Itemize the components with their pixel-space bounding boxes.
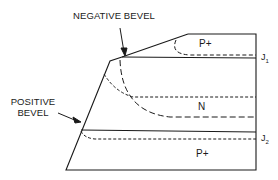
j2-sub: 2 [266, 139, 269, 145]
n-depletion-edge-short [104, 74, 256, 97]
positive-bevel-label: POSITIVE BEVEL [8, 96, 58, 118]
negative-bevel-label: NEGATIVE BEVEL [73, 10, 155, 21]
region-p-plus-top: P+ [199, 38, 212, 49]
negative-bevel-arrowhead [121, 48, 127, 56]
device-outline [66, 34, 256, 170]
j1-sub: 1 [266, 58, 269, 64]
n-depletion-edge-long [120, 60, 256, 117]
region-p-plus-bottom: P+ [196, 148, 209, 159]
junction-j2-label: J2 [261, 133, 269, 145]
region-n: N [198, 101, 205, 112]
positive-bevel-arrowhead [73, 117, 81, 123]
junction-j1-label: J1 [261, 52, 269, 64]
p-top-depletion-edge [175, 40, 256, 55]
positive-bevel-label-line1: POSITIVE [8, 96, 58, 107]
bevel-diagram: NEGATIVE BEVEL POSITIVE BEVEL P+ N P+ J1… [0, 0, 278, 180]
j1-line [122, 57, 256, 58]
j2-line [81, 130, 256, 132]
device-cross-section [0, 0, 278, 180]
positive-bevel-label-line2: BEVEL [8, 107, 58, 118]
